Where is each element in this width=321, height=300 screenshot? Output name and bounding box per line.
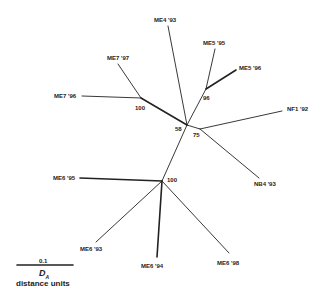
leaf-label: ME5 '95 [203,40,225,46]
leaf-branch [162,181,229,253]
bootstrap-value: 75 [193,132,200,138]
leaf-label: ME5 '96 [239,65,261,71]
bootstrap-value: 100 [135,105,145,111]
leaf-branch [168,26,187,125]
leaf-branch [206,70,236,89]
leaf-branch [82,96,141,98]
leaf-branch [80,178,162,181]
internal-branch [162,125,187,181]
leaf-branch [118,64,141,98]
leaf-label: ME6 '95 [53,175,75,181]
leaf-branch [96,181,162,242]
scale-bar-units: distance units [16,279,70,288]
leaf-label: ME7 '97 [107,55,129,61]
phylogenetic-tree [0,0,321,300]
leaf-label: NF1 '92 [287,106,308,112]
leaf-branch [200,111,282,129]
bootstrap-value: 96 [203,95,210,101]
internal-branch [141,98,187,125]
leaf-branch [206,49,215,89]
internal-branch [187,125,200,129]
bootstrap-value: 100 [167,177,177,183]
leaf-label: ME6 '98 [217,260,239,266]
leaf-label: ME4 '93 [154,17,176,23]
leaf-branch [157,181,162,257]
bootstrap-value: 58 [175,126,182,132]
scale-bar-value: 0.1 [39,258,47,264]
leaf-branch [200,129,259,178]
leaf-label: NB4 '93 [254,181,276,187]
leaf-label: ME6 '94 [141,263,163,269]
leaf-label: ME7 '96 [54,93,76,99]
leaf-label: ME6 '93 [80,246,102,252]
